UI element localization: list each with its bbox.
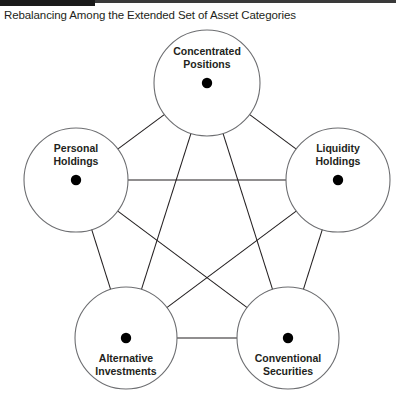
node-label-line1: Personal [54,142,98,154]
node-label-liquidity-holdings: LiquidityHoldings [316,142,361,167]
node-dot-conventional-securities[interactable] [283,333,293,343]
node-label-line2: Holdings [54,155,99,167]
node-label-line2: Positions [183,58,230,70]
node-label-line1: Alternative [99,352,153,364]
node-label-conventional-securities: ConventionalSecurities [255,352,322,377]
node-dot-alternative-investments[interactable] [121,333,131,343]
node-label-line2: Securities [263,365,313,377]
node-dot-liquidity-holdings[interactable] [333,175,343,185]
figure-title: Rebalancing Among the Extended Set of As… [4,8,384,22]
node-label-line2: Holdings [316,155,361,167]
pentagon-network-svg: ConcentratedPositionsLiquidityHoldingsCo… [0,22,396,400]
node-dot-personal-holdings[interactable] [71,175,81,185]
node-label-personal-holdings: PersonalHoldings [54,142,99,167]
node-label-line2: Investments [95,365,156,377]
node-label-line1: Conventional [255,352,322,364]
node-label-line1: Liquidity [316,142,360,154]
diagram-canvas: ConcentratedPositionsLiquidityHoldingsCo… [0,22,396,400]
header-accent-bar [0,0,95,6]
figure-container: Rebalancing Among the Extended Set of As… [0,0,396,400]
node-label-alternative-investments: AlternativeInvestments [95,352,156,377]
node-dot-concentrated-positions[interactable] [202,78,212,88]
node-label-line1: Concentrated [173,45,241,57]
